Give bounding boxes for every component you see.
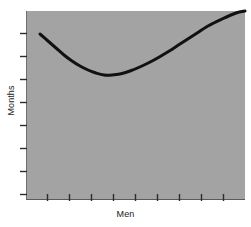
y-axis-label-container: Months — [0, 0, 22, 201]
chart-figure: Months Men — [0, 0, 251, 227]
plot-background — [26, 11, 245, 200]
y-axis-label: Months — [6, 85, 17, 115]
plot-canvas — [0, 0, 251, 227]
x-axis-label: Men — [0, 209, 251, 220]
